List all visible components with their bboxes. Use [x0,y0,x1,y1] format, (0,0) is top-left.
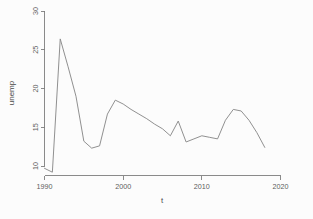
x-tick-label: 2000 [115,182,131,191]
x-tick-label: 2010 [194,182,210,191]
data-series-unemp [45,39,265,172]
x-tick-label: 1990 [37,182,53,191]
y-tick-label: 15 [31,123,40,131]
y-tick-label: 25 [31,46,40,54]
y-axis-title: unemp [7,80,16,105]
line-chart: 1015202530 1990200020102020 unemp t [0,0,313,219]
y-tick-group: 1015202530 [31,7,44,170]
y-tick-label: 20 [31,85,40,93]
x-tick-group: 1990200020102020 [37,176,289,192]
y-tick-label: 10 [31,162,40,170]
y-tick-label: 30 [31,7,40,15]
x-axis-title: t [161,196,164,205]
plot-container: 1015202530 1990200020102020 unemp t [0,0,313,219]
x-tick-label: 2020 [273,182,289,191]
